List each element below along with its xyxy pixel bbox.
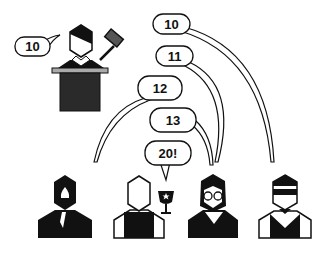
bidder-2-winner xyxy=(114,176,164,238)
auctioneer-bid-text: 10 xyxy=(25,39,39,54)
svg-text:12: 12 xyxy=(153,81,167,96)
trophy-icon xyxy=(158,191,174,214)
svg-text:20!: 20! xyxy=(159,146,178,161)
svg-text:10: 10 xyxy=(164,17,178,32)
auctioneer xyxy=(52,25,108,111)
svg-text:13: 13 xyxy=(166,113,180,128)
auction-illustration: 10 10 11 12 13 20! xyxy=(0,0,327,253)
gavel-icon xyxy=(100,29,123,60)
svg-text:11: 11 xyxy=(168,49,182,64)
bidder-3-glasses xyxy=(188,174,238,238)
bid-bubble-20: 20! xyxy=(145,141,191,180)
bidder-1-black-suit xyxy=(38,175,92,238)
bidder-4-sunglasses xyxy=(259,175,311,238)
glasses-icon xyxy=(204,192,212,200)
auctioneer-speech-bubble: 10 xyxy=(15,35,60,56)
sunglasses-icon xyxy=(273,189,297,195)
